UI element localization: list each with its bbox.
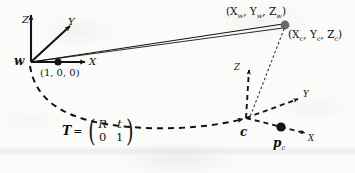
- world-axis-y-label: Y: [68, 17, 75, 27]
- camera-axis-x-label: X: [308, 134, 314, 143]
- transform-equals: =: [73, 126, 82, 137]
- matrix-cell-0: 0: [98, 131, 107, 144]
- cc-mid2: , Z: [320, 28, 334, 40]
- camera-point-label: pc: [273, 137, 285, 152]
- world-unit-point-label: (1, 0, 0): [40, 68, 80, 78]
- figure-canvas: Z Y X w (1, 0, 0) (Xw, Yw, Zw) (Xc, Yc, …: [0, 0, 355, 173]
- cc-open: (X: [288, 28, 300, 40]
- camera-axis-y: [246, 99, 298, 118]
- matrix-cell-1: 1: [116, 131, 123, 144]
- wc-close: ): [282, 5, 286, 17]
- world-axis-x-label: X: [89, 57, 96, 67]
- matrix-left-paren: (: [88, 116, 95, 146]
- transform-symbol: T: [62, 125, 71, 138]
- camera-axis-x: [246, 118, 305, 133]
- ray-world-to-point: [31, 24, 283, 62]
- matrix-body: R t 0 1: [98, 118, 123, 144]
- transform-equation: T = ( R t 0 1 ): [62, 116, 136, 146]
- cc-mid1: , Y: [303, 28, 317, 40]
- cc-close: ): [338, 28, 342, 40]
- scene-point-camera-coords: (Xc, Yc, Zc): [288, 29, 342, 43]
- world-origin-label: w: [14, 55, 24, 67]
- wc-open: (X: [226, 5, 238, 17]
- camera-axis-y-label: Y: [303, 90, 309, 99]
- wc-mid2: , Z: [262, 5, 276, 17]
- scene-point-world-coords: (Xw, Yw, Zw): [226, 6, 286, 20]
- camera-axis-z: [246, 70, 249, 118]
- diagram-vectors: [0, 0, 355, 173]
- world-unit-point-marker: [54, 58, 61, 65]
- camera-axis-z-label: Z: [234, 63, 240, 72]
- matrix-right-paren: ): [126, 116, 133, 146]
- camera-point-marker: [276, 122, 285, 131]
- camera-origin-label: c: [240, 126, 247, 138]
- world-axis-z-label: Z: [22, 15, 29, 25]
- line-point-to-camera: [250, 29, 284, 117]
- p-subscript: c: [281, 144, 285, 152]
- wc-mid1: , Y: [243, 5, 257, 17]
